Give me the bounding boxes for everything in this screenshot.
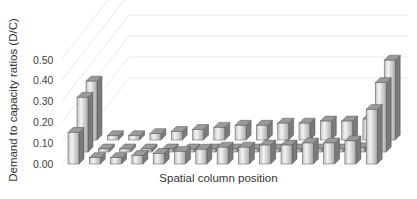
bar [345, 136, 361, 164]
bar [324, 138, 340, 164]
bar [214, 122, 230, 140]
bar [238, 142, 254, 164]
bar [111, 153, 127, 164]
bar [68, 128, 84, 165]
y-tick-2: 0.20 [33, 116, 63, 128]
bar [171, 127, 187, 140]
bar [153, 149, 169, 165]
bar [217, 142, 233, 164]
bar [235, 120, 251, 140]
bar [98, 144, 114, 152]
y-tick-1: 0.10 [33, 137, 63, 149]
y-tick-5: 0.50 [33, 54, 63, 66]
bar [278, 118, 294, 140]
x-axis-label: Spatial column position [0, 172, 417, 184]
bar [175, 146, 191, 164]
bar [302, 138, 318, 164]
bar [196, 144, 212, 164]
bar [107, 131, 123, 140]
y-tick-4: 0.40 [33, 74, 63, 86]
bar [193, 125, 209, 141]
bar [366, 104, 382, 164]
bar [89, 153, 105, 164]
bar [260, 140, 276, 164]
y-tick-3: 0.30 [33, 95, 63, 107]
bar [256, 120, 272, 140]
y-tick-0: 0.00 [33, 158, 63, 170]
bar [120, 144, 136, 152]
y-axis-label: Demand to capacity ratios (D/C) [2, 0, 24, 199]
bar [281, 140, 297, 164]
bar [320, 116, 336, 140]
bar [150, 129, 166, 140]
bar [129, 131, 145, 140]
bar [299, 118, 315, 140]
bar [132, 151, 148, 164]
